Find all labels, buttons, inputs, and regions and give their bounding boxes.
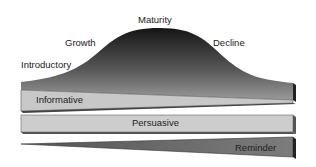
stage-introductory-label: Introductory	[21, 59, 71, 70]
stage-growth-label: Growth	[65, 37, 96, 48]
stage-maturity-label: Maturity	[138, 14, 172, 25]
persuasive-label: Persuasive	[132, 117, 179, 128]
stage-decline-label: Decline	[213, 37, 245, 48]
reminder-label: Reminder	[235, 142, 276, 153]
informative-label: Informative	[36, 94, 83, 105]
